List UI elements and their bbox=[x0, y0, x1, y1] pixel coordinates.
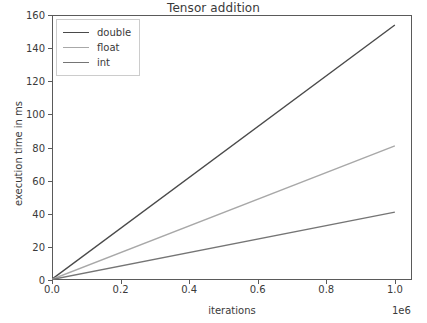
x-axis-offset-text: 1e6 bbox=[392, 305, 411, 316]
x-tick-label: 1.0 bbox=[387, 284, 403, 295]
legend-swatch-int bbox=[63, 62, 89, 63]
x-tick-label: 0.0 bbox=[44, 284, 60, 295]
legend-item-double[interactable]: double bbox=[63, 25, 131, 40]
legend-label-double: double bbox=[97, 27, 131, 38]
x-tick-label: 0.8 bbox=[318, 284, 334, 295]
x-tick-mark bbox=[258, 280, 259, 284]
legend-item-float[interactable]: float bbox=[63, 40, 131, 55]
legend-swatch-double bbox=[63, 32, 89, 33]
x-tick-mark bbox=[395, 280, 396, 284]
x-tick-mark bbox=[189, 280, 190, 284]
x-tick-label: 0.2 bbox=[113, 284, 129, 295]
x-tick-mark bbox=[121, 280, 122, 284]
legend-label-int: int bbox=[97, 57, 110, 68]
chart-legend: double float int bbox=[56, 19, 140, 76]
legend-label-float: float bbox=[97, 42, 119, 53]
x-tick-mark bbox=[326, 280, 327, 284]
legend-swatch-float bbox=[63, 47, 89, 48]
x-tick-mark bbox=[52, 280, 53, 284]
x-axis-label: iterations bbox=[52, 305, 412, 316]
x-tick-label: 0.6 bbox=[250, 284, 266, 295]
legend-item-int[interactable]: int bbox=[63, 55, 131, 70]
x-tick-label: 0.4 bbox=[181, 284, 197, 295]
chart-figure: Tensor addition execution time in ms 020… bbox=[0, 0, 427, 323]
